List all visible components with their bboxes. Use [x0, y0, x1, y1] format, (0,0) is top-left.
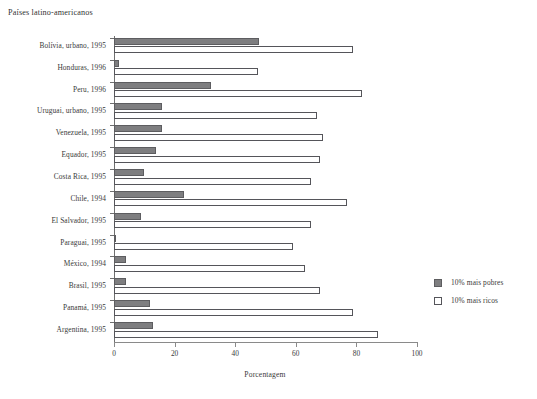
x-axis-tick [356, 342, 357, 347]
y-axis-tick-label: Chile, 1994 [70, 193, 106, 202]
legend-item-poorest[interactable]: 10% mais pobres [434, 278, 503, 287]
chart-row: Paraguai, 1995 [114, 233, 417, 255]
bar-poorest [114, 169, 144, 176]
chart-row: Costa Rica, 1995 [114, 167, 417, 189]
bar-poorest [114, 38, 259, 45]
legend-item-richest[interactable]: 10% mais ricos [434, 296, 503, 305]
y-axis-tick-label: Honduras, 1996 [57, 62, 106, 71]
bar-poorest [114, 147, 156, 154]
chart-row: El Salvador, 1995 [114, 211, 417, 233]
bar-poorest [114, 125, 162, 132]
bar-poorest [114, 300, 150, 307]
y-axis-tick-label: Bolívia, urbano, 1995 [39, 40, 106, 49]
legend-label-poorest: 10% mais pobres [451, 278, 503, 287]
legend-label-richest: 10% mais ricos [451, 296, 498, 305]
x-axis-tick-label: 0 [112, 349, 116, 358]
y-axis-tick-label: Uruguai, urbano, 1995 [37, 106, 106, 115]
bar-richest [114, 287, 320, 294]
x-axis-title: Porcentagem [244, 370, 285, 379]
bar-richest [114, 156, 320, 163]
bar-poorest [114, 278, 126, 285]
bar-richest [114, 134, 323, 141]
y-axis-tick-label: México, 1994 [64, 259, 106, 268]
legend-swatch-icon-richest [434, 297, 442, 305]
x-axis-tick [235, 342, 236, 347]
x-axis-tick-label: 40 [231, 349, 238, 358]
bar-poorest [114, 322, 153, 329]
bar-richest [114, 243, 293, 250]
x-axis-spine [114, 342, 417, 343]
y-axis-tick-label: Paraguai, 1995 [60, 237, 106, 246]
bar-poorest [114, 191, 184, 198]
bar-richest [114, 221, 311, 228]
chart-row: Uruguai, urbano, 1995 [114, 102, 417, 124]
bar-richest [114, 68, 258, 75]
bar-poorest [114, 256, 126, 263]
bar-poorest [114, 60, 119, 67]
x-axis-tick-label: 100 [411, 349, 422, 358]
bar-richest [114, 46, 353, 53]
bar-poorest [114, 235, 116, 242]
x-axis-tick [114, 342, 115, 347]
chart-row: Panamá, 1995 [114, 298, 417, 320]
chart-row: Peru, 1996 [114, 80, 417, 102]
x-axis-tick [175, 342, 176, 347]
y-axis-tick-label: Brasil, 1995 [69, 281, 106, 290]
chart-row: Equador, 1995 [114, 145, 417, 167]
bar-richest [114, 112, 317, 119]
y-axis-tick-label: Argentina, 1995 [57, 325, 106, 334]
y-axis-tick-label: Panamá, 1995 [63, 303, 106, 312]
bar-poorest [114, 82, 211, 89]
x-axis-tick [417, 342, 418, 347]
bar-poorest [114, 103, 162, 110]
y-axis-tick-label: Costa Rica, 1995 [54, 172, 106, 181]
bar-richest [114, 199, 347, 206]
bar-richest [114, 90, 362, 97]
bar-richest [114, 265, 305, 272]
plot-area: Bolívia, urbano, 1995Honduras, 1996Peru,… [114, 36, 417, 342]
bar-poorest [114, 213, 141, 220]
y-axis-tick-label: Peru, 1996 [73, 84, 106, 93]
chart-figure: Países latino-americanos Bolívia, urbano… [0, 0, 537, 399]
x-axis-tick [296, 342, 297, 347]
y-axis-tick-label: El Salvador, 1995 [51, 215, 106, 224]
chart-row: Argentina, 1995 [114, 320, 417, 342]
page-title: Países latino-americanos [8, 8, 93, 17]
x-axis-tick-label: 80 [353, 349, 360, 358]
chart-legend: 10% mais pobres 10% mais ricos [434, 278, 503, 314]
legend-swatch-icon-poorest [434, 279, 442, 287]
bar-richest [114, 178, 311, 185]
x-axis-tick-label: 20 [171, 349, 178, 358]
bar-richest [114, 331, 378, 338]
chart-row: Honduras, 1996 [114, 58, 417, 80]
x-axis-tick-label: 60 [292, 349, 299, 358]
chart-row: Venezuela, 1995 [114, 123, 417, 145]
chart-row: Bolívia, urbano, 1995 [114, 36, 417, 58]
chart-row: México, 1994 [114, 255, 417, 277]
chart-row: Chile, 1994 [114, 189, 417, 211]
y-axis-tick-label: Equador, 1995 [61, 150, 106, 159]
bar-richest [114, 309, 353, 316]
chart-row: Brasil, 1995 [114, 276, 417, 298]
y-axis-tick-label: Venezuela, 1995 [56, 128, 106, 137]
